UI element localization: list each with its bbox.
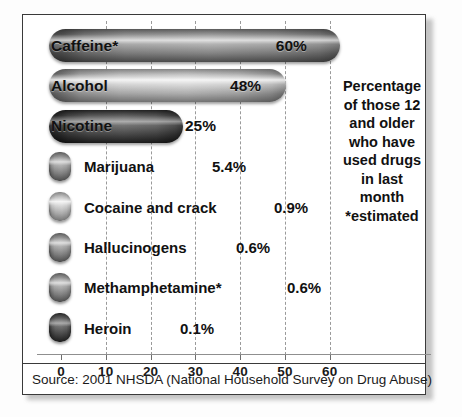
bar-row: Methamphetamine*0.6% — [37, 271, 331, 304]
bar-value-label: 0.9% — [274, 198, 308, 215]
bar-label: Marijuana — [84, 158, 154, 175]
bar-row: Nicotine25% — [37, 110, 331, 143]
bar-value-label: 5.4% — [212, 158, 246, 175]
bar-heroin — [49, 313, 71, 342]
bar-row: Caffeine*60% — [37, 29, 331, 62]
bar-value-label: 0.6% — [287, 279, 321, 296]
bar-label: Cocaine and crack — [84, 198, 217, 215]
bar-label: Hallucinogens — [84, 239, 187, 256]
bar-methamphetamine — [49, 273, 71, 302]
bar-label: Nicotine — [51, 117, 112, 135]
chart-screenshot: 0102030405060 Caffeine*60%Alcohol48%Nico… — [0, 0, 462, 417]
bar-row: Heroin0.1% — [37, 311, 331, 344]
caption-line: Percentage — [341, 77, 423, 96]
bar-label: Caffeine* — [51, 37, 118, 55]
bar-row: Hallucinogens0.6% — [37, 231, 331, 264]
bar-label: Methamphetamine* — [84, 279, 222, 296]
bar-value-label: 0.1% — [180, 319, 214, 336]
caption-line: who have — [341, 133, 423, 152]
caption-line: used drugs — [341, 151, 423, 170]
plot-area: 0102030405060 Caffeine*60%Alcohol48%Nico… — [37, 21, 331, 355]
tick-mark-10 — [106, 355, 107, 360]
bar-hallucinogens — [49, 233, 71, 262]
bar-value-label: 25% — [185, 117, 216, 135]
bar-row: Marijuana5.4% — [37, 150, 331, 183]
bar-row: Cocaine and crack0.9% — [37, 190, 331, 223]
tick-mark-60 — [330, 355, 331, 360]
bar-value-label: 48% — [230, 77, 261, 95]
tick-mark-0 — [61, 355, 62, 360]
bar-label: Alcohol — [51, 77, 108, 95]
tick-mark-50 — [285, 355, 286, 360]
chart-card: 0102030405060 Caffeine*60%Alcohol48%Nico… — [22, 14, 426, 395]
caption-line: *estimated — [341, 207, 423, 226]
chart-caption: Percentageof those 12and olderwho haveus… — [341, 77, 423, 225]
tick-mark-30 — [195, 355, 196, 360]
bar-cocaine-and-crack — [49, 192, 71, 221]
bar-marijuana — [49, 152, 71, 181]
caption-line: and older — [341, 114, 423, 133]
source-strip: Source: 2001 NHSDA (National Household S… — [23, 364, 425, 394]
bar-value-label: 0.6% — [236, 239, 270, 256]
tick-mark-40 — [240, 355, 241, 360]
caption-line: of those 12 — [341, 96, 423, 115]
bar-value-label: 60% — [276, 37, 307, 55]
bar-row: Alcohol48% — [37, 69, 331, 102]
tick-mark-20 — [151, 355, 152, 360]
bar-label: Heroin — [84, 319, 132, 336]
x-axis-line — [37, 354, 431, 355]
source-text: Source: 2001 NHSDA (National Household S… — [23, 372, 432, 387]
caption-line: in last — [341, 170, 423, 189]
caption-line: month — [341, 188, 423, 207]
